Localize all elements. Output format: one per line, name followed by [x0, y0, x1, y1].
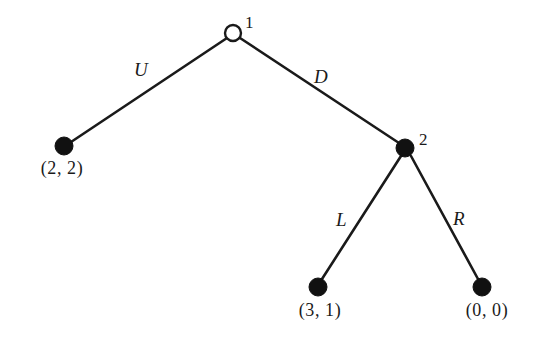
payoff-uu: (2, 2) [41, 159, 84, 177]
terminal-node-dl [309, 278, 327, 296]
branch-label-r: R [453, 209, 465, 228]
branch-label-d: D [314, 67, 328, 86]
edge-d [240, 38, 399, 143]
payoff-dl: (3, 1) [299, 301, 342, 319]
node-label-player2: 2 [419, 131, 428, 148]
edge-u [71, 38, 227, 142]
edge-l [322, 156, 401, 279]
branch-label-l: L [336, 210, 347, 229]
node-player2 [396, 139, 414, 157]
branch-label-u: U [134, 60, 148, 79]
game-tree-figure: 1 2 U D L R (2, 2) (3, 1) (0, 0) [0, 0, 543, 339]
node-root-player1 [225, 25, 241, 41]
edge-r [411, 156, 478, 279]
node-label-player1: 1 [245, 14, 254, 31]
payoff-dr: (0, 0) [466, 301, 509, 319]
terminal-node-uu [55, 137, 73, 155]
terminal-node-dr [473, 278, 491, 296]
